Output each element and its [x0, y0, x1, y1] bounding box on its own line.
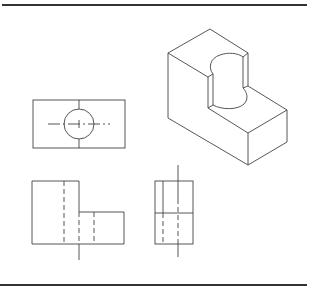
front-view [32, 181, 124, 260]
drawing-canvas [0, 0, 314, 292]
isometric-view [168, 29, 287, 165]
side-view [155, 165, 193, 257]
top-view [33, 100, 125, 148]
